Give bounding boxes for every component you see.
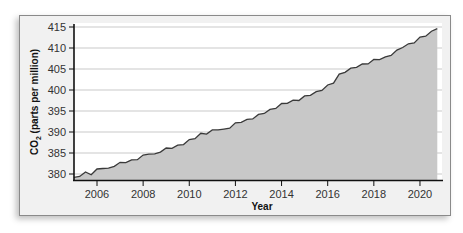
y-tick-label: 385: [48, 147, 66, 159]
x-tick-label: 2008: [131, 188, 155, 200]
co2-area-chart: 380385390395400405410415 200620082010201…: [0, 0, 463, 233]
x-axis-ticks: 20062008201020122014201620182020: [85, 180, 432, 200]
y-tick-label: 400: [48, 84, 66, 96]
y-tick-label: 415: [48, 21, 66, 33]
y-tick-label: 405: [48, 63, 66, 75]
x-tick-label: 2006: [85, 188, 109, 200]
y-tick-label: 390: [48, 126, 66, 138]
x-axis-title: Year: [251, 201, 272, 212]
x-tick-label: 2012: [223, 188, 247, 200]
x-tick-label: 2018: [362, 188, 386, 200]
x-tick-label: 2020: [408, 188, 432, 200]
x-tick-label: 2014: [269, 188, 293, 200]
y-tick-label: 380: [48, 168, 66, 180]
y-tick-label: 410: [48, 42, 66, 54]
y-axis-ticks: 380385390395400405410415: [48, 21, 74, 180]
y-axis-title: CO2 (parts per million): [29, 49, 42, 155]
y-tick-label: 395: [48, 105, 66, 117]
x-tick-label: 2010: [177, 188, 201, 200]
x-tick-label: 2016: [315, 188, 339, 200]
